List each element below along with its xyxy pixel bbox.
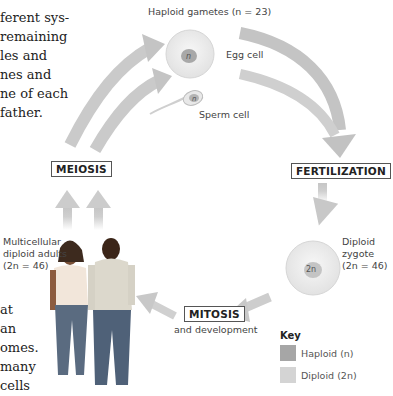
body-text-line: cells <box>0 376 39 395</box>
body-text-line: many <box>0 357 39 376</box>
mitosis-sub-label: and development <box>174 324 258 336</box>
key-item-label: Haploid (n) <box>301 348 354 359</box>
adults-label-line: Multicellular <box>3 236 67 248</box>
key-item-diploid: Diploid (2n) <box>280 367 357 383</box>
body-text-line: nes and <box>0 65 69 84</box>
sperm-cell-label: Sperm cell <box>199 109 249 121</box>
body-text-top: ferent sys- remaining les and nes and ne… <box>0 8 69 122</box>
zygote-label: Diploid zygote (2n = 46) <box>342 236 388 272</box>
diploid-swatch <box>280 367 296 383</box>
adults-to-meiosis-arrows <box>55 190 111 230</box>
egg-cell-label: Egg cell <box>226 49 263 61</box>
sperm-nucleus-label: n <box>192 93 196 105</box>
fertilization-label: FERTILIZATION <box>291 163 391 179</box>
adults-label-line: diploid adults <box>3 248 67 260</box>
body-text-line: an <box>0 319 39 338</box>
key-legend: Key Haploid (n) Diploid (2n) <box>280 330 357 383</box>
body-text-line: omes. <box>0 338 39 357</box>
body-text-line: at <box>0 300 39 319</box>
body-text-line: les and <box>0 46 69 65</box>
key-item-label: Diploid (2n) <box>301 370 357 381</box>
zygote-label-line: (2n = 46) <box>342 260 388 272</box>
body-text-line: ne of each <box>0 84 69 103</box>
haploid-swatch <box>280 345 296 361</box>
key-title: Key <box>280 330 357 341</box>
meiosis-label: MEIOSIS <box>51 161 112 177</box>
zygote-nucleus-label: 2n <box>306 264 316 276</box>
body-text-line: remaining <box>0 27 69 46</box>
mitosis-label: MITOSIS <box>184 306 245 322</box>
fertilization-to-zygote-arrow <box>306 183 338 229</box>
body-text-bottom: at an omes. many cells <box>0 300 39 395</box>
adults-label-line: (2n = 46) <box>3 260 67 272</box>
zygote-label-line: zygote <box>342 248 388 260</box>
haploid-gametes-label: Haploid gametes (n = 23) <box>148 6 271 18</box>
key-item-haploid: Haploid (n) <box>280 345 357 361</box>
body-text-line: ferent sys- <box>0 8 69 27</box>
mitosis-to-adults-arrow <box>136 292 175 316</box>
adults-label: Multicellular diploid adults (2n = 46) <box>3 236 67 272</box>
egg-nucleus-label: n <box>186 51 191 63</box>
meiosis-to-gametes-arrows <box>70 34 172 150</box>
zygote-label-line: Diploid <box>342 236 388 248</box>
body-text-line: father. <box>0 103 69 122</box>
